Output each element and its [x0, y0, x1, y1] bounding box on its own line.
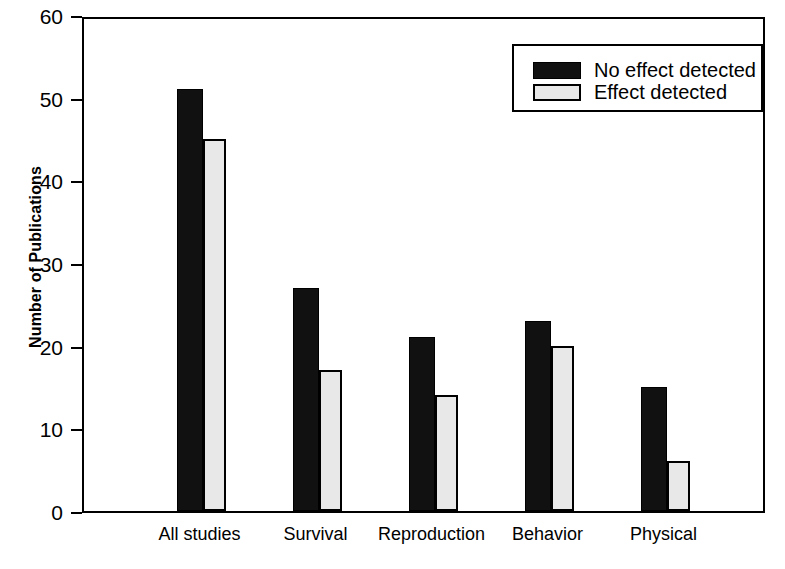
chart-legend: No effect detected Effect detected: [512, 44, 763, 112]
y-axis-tick-40: [71, 181, 82, 183]
bar-all-studies-no-effect-detected: [177, 89, 203, 511]
legend-entry-effect-detected: Effect detected: [533, 82, 727, 102]
legend-entry-no-effect-detected: No effect detected: [533, 60, 756, 80]
y-axis-tick-10: [71, 429, 82, 431]
bar-chart-figure: Number of Publications 0102030405060 All…: [0, 0, 785, 569]
legend-swatch-icon-effect-detected: [533, 84, 581, 101]
y-axis-tick-label-30: 30: [3, 254, 63, 275]
y-axis-tick-30: [71, 264, 82, 266]
y-axis-tick-label-0: 0: [3, 502, 63, 523]
y-axis-tick-0: [71, 512, 82, 514]
legend-label-no-effect-detected: No effect detected: [594, 60, 756, 80]
bar-survival-no-effect-detected: [293, 288, 319, 511]
y-axis-tick-label-50: 50: [3, 89, 63, 110]
legend-label-effect-detected: Effect detected: [594, 82, 727, 102]
bar-reproduction-effect-detected: [435, 395, 458, 511]
bar-behavior-no-effect-detected: [525, 321, 551, 511]
bar-all-studies-effect-detected: [203, 139, 226, 511]
bar-physical-no-effect-detected: [641, 387, 667, 511]
bar-physical-effect-detected: [667, 461, 690, 511]
y-axis-tick-20: [71, 347, 82, 349]
y-axis-tick-50: [71, 99, 82, 101]
y-axis-tick-60: [71, 16, 82, 18]
bar-behavior-effect-detected: [551, 346, 574, 511]
x-axis-label-physical: Physical: [574, 524, 754, 544]
y-axis-tick-label-60: 60: [3, 6, 63, 27]
y-axis-tick-label-20: 20: [3, 337, 63, 358]
bar-reproduction-no-effect-detected: [409, 337, 435, 511]
bar-survival-effect-detected: [319, 370, 342, 511]
legend-swatch-icon-no-effect-detected: [533, 62, 581, 79]
y-axis-tick-label-10: 10: [3, 419, 63, 440]
y-axis-tick-label-40: 40: [3, 171, 63, 192]
